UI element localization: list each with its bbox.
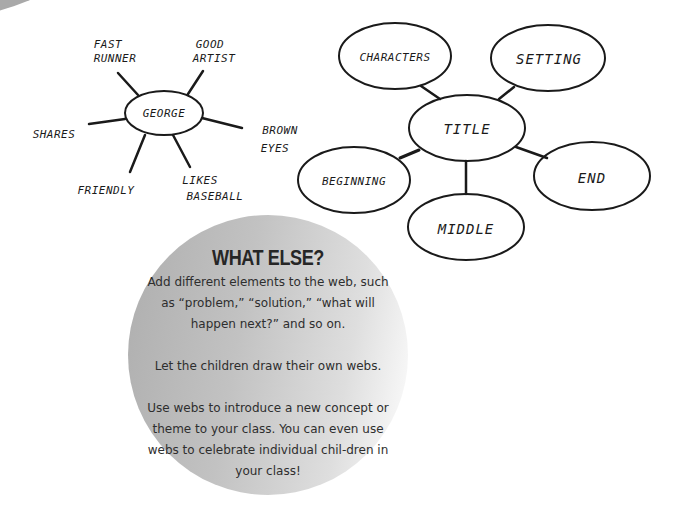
callout-title: WHAT ELSE?: [163, 244, 373, 272]
connector-line: [400, 150, 419, 158]
trait-label: EYES: [261, 142, 290, 155]
callout-content: WHAT ELSE? Add different elements to the…: [140, 244, 396, 503]
trait-label: FAST: [94, 38, 123, 51]
connector-line: [421, 86, 440, 99]
node-label-setting: SETTING: [516, 51, 582, 67]
trait-label: RUNNER: [94, 52, 137, 65]
connector-line: [188, 71, 203, 94]
node-label-end: END: [578, 170, 606, 186]
trait-label: BASEBALL: [187, 190, 244, 203]
connector-line: [130, 135, 145, 172]
trait-label: GOOD: [196, 38, 225, 51]
node-label-middle: MIDDLE: [437, 221, 495, 237]
callout-paragraph: Let the children draw their own webs.: [140, 356, 396, 377]
trait-label: FRIENDLY: [78, 184, 136, 197]
connector-line: [173, 135, 190, 167]
character-web: [89, 71, 242, 172]
center-node-label: GEORGE: [143, 107, 186, 120]
connector-line: [202, 118, 242, 128]
trait-label: BROWN: [262, 124, 298, 137]
character-web-labels: GEORGE FAST RUNNER GOOD ARTIST SHARES BR…: [33, 38, 298, 203]
callout-paragraph: Add different elements to the web, such …: [140, 272, 396, 335]
connector-line: [516, 147, 547, 158]
center-node-label: TITLE: [443, 121, 490, 137]
node-label-characters: CHARACTERS: [359, 51, 430, 64]
story-web-labels: CHARACTERS SETTING TITLE BEGINNING END M…: [322, 51, 606, 237]
connector-line: [499, 87, 514, 99]
trait-label: ARTIST: [192, 52, 237, 65]
node-label-beginning: BEGINNING: [322, 175, 386, 188]
trait-label: SHARES: [33, 128, 76, 141]
connector-line: [89, 119, 125, 124]
connector-line: [118, 73, 138, 95]
trait-label: LIKES: [182, 174, 218, 187]
callout-paragraph: Use webs to introduce a new concept or t…: [140, 398, 396, 482]
